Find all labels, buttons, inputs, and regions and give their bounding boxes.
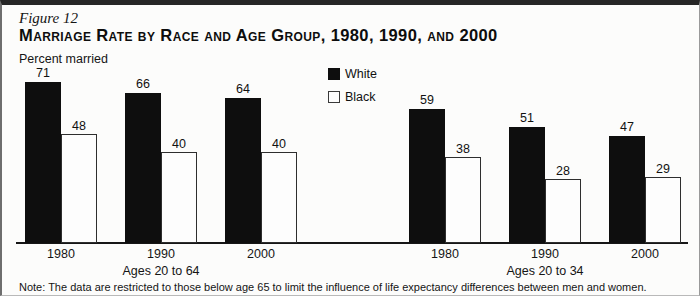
bar-value-label: 29 <box>656 162 670 176</box>
figure-12-chart-panel: Figure 12 Marriage Rate by Race and Age … <box>0 0 700 296</box>
bar-black-2000-group1: 40 <box>261 152 297 243</box>
figure-number-label: Figure 12 <box>19 10 78 27</box>
bar-value-label: 64 <box>236 82 250 96</box>
x-tick-label: 1980 <box>25 247 97 261</box>
bar-value-label: 48 <box>72 119 86 133</box>
bar-white-1990-group1: 66 <box>125 93 161 243</box>
bar-white-2000-group2: 47 <box>609 136 645 243</box>
bar-pair-1980-group2: 59381980 <box>409 70 481 243</box>
x-tick-label: 2000 <box>225 247 297 261</box>
chart-area: 714819806640199064402000Ages 20 to 64593… <box>2 70 699 243</box>
bar-value-label: 71 <box>36 66 50 80</box>
age-group-label: Ages 20 to 64 <box>71 264 251 278</box>
bar-white-1980-group1: 71 <box>25 82 61 243</box>
footnote: Note: The data are restricted to those b… <box>19 281 647 293</box>
bar-pair-2000-group2: 47292000 <box>609 70 681 243</box>
bar-black-1980-group2: 38 <box>445 157 481 243</box>
bar-pair-1980-group1: 71481980 <box>25 70 97 243</box>
bar-value-label: 38 <box>456 142 470 156</box>
bar-value-label: 40 <box>272 137 286 151</box>
bar-black-2000-group2: 29 <box>645 177 681 243</box>
bar-black-1990-group1: 40 <box>161 152 197 243</box>
x-tick-label: 2000 <box>609 247 681 261</box>
x-axis-line <box>16 242 688 244</box>
bar-value-label: 47 <box>620 120 634 134</box>
bar-pair-2000-group1: 64402000 <box>225 70 297 243</box>
bar-black-1990-group2: 28 <box>545 179 581 243</box>
bar-black-1980-group1: 48 <box>61 134 97 243</box>
bar-pair-1990-group2: 51281990 <box>509 70 581 243</box>
bar-value-label: 51 <box>520 111 534 125</box>
bar-value-label: 28 <box>556 164 570 178</box>
age-group-label: Ages 20 to 34 <box>455 264 635 278</box>
y-axis-label: Percent married <box>19 52 108 66</box>
x-tick-label: 1980 <box>409 247 481 261</box>
bar-value-label: 59 <box>420 93 434 107</box>
bar-pair-1990-group1: 66401990 <box>125 70 197 243</box>
bar-white-1990-group2: 51 <box>509 127 545 243</box>
chart-title: Marriage Rate by Race and Age Group, 198… <box>19 26 498 45</box>
bar-value-label: 40 <box>172 137 186 151</box>
x-tick-label: 1990 <box>509 247 581 261</box>
bar-white-2000-group1: 64 <box>225 98 261 243</box>
x-tick-label: 1990 <box>125 247 197 261</box>
bar-value-label: 66 <box>136 77 150 91</box>
bar-white-1980-group2: 59 <box>409 109 445 243</box>
